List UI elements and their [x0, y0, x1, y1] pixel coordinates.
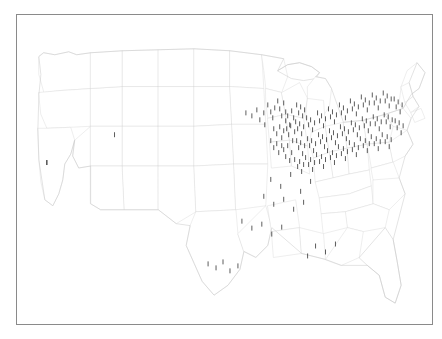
- state-boundaries: [38, 49, 425, 303]
- us-point-map: [17, 15, 432, 324]
- figure-canvas: [0, 0, 442, 339]
- plot-frame: [16, 14, 433, 325]
